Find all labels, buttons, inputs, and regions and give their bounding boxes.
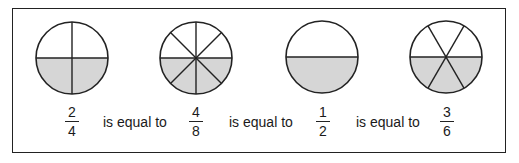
denominator: 2: [311, 122, 335, 138]
equal-text: is equal to: [356, 114, 420, 130]
numerator: 2: [60, 105, 84, 121]
equal-text: is equal to: [103, 114, 167, 130]
numerator: 4: [184, 105, 208, 121]
numerator: 3: [435, 105, 459, 121]
fraction-1-2: 1 2: [311, 105, 335, 138]
fraction-2-4: 2 4: [60, 105, 84, 138]
circle-quarters: [36, 22, 108, 94]
denominator: 8: [184, 122, 208, 138]
fraction-4-8: 4 8: [184, 105, 208, 138]
numerator: 1: [311, 105, 335, 121]
circle-sixths: [410, 21, 482, 93]
equal-text: is equal to: [229, 114, 293, 130]
circle-halves: [286, 21, 358, 93]
denominator: 4: [60, 122, 84, 138]
denominator: 6: [435, 122, 459, 138]
circle-eighths: [160, 22, 232, 94]
fraction-circles: [0, 0, 519, 163]
fraction-3-6: 3 6: [435, 105, 459, 138]
